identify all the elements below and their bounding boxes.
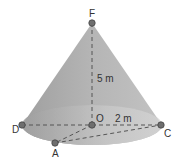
label-F: F (89, 8, 95, 19)
label-A: A (52, 148, 59, 159)
point-A (52, 140, 58, 146)
cone-diagram: F O D C A 5 m 2 m (0, 0, 182, 167)
point-D (19, 122, 25, 128)
height-label: 5 m (97, 73, 114, 84)
label-C: C (164, 128, 171, 139)
radius-label: 2 m (115, 113, 132, 124)
point-O (89, 122, 95, 128)
label-D: D (12, 124, 19, 135)
point-F (89, 20, 95, 26)
label-O: O (96, 113, 104, 124)
